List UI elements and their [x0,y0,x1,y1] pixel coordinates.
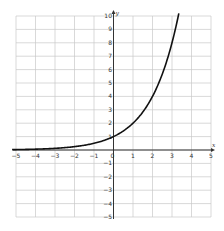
exponential-curve [12,13,179,149]
axes [13,10,215,219]
x-tick-label: 4 [190,152,194,159]
x-tick-label: −4 [31,152,40,159]
x-tick-label: −2 [70,152,79,159]
y-tick-label: −1 [103,159,112,166]
y-tick-label: 5 [108,79,112,86]
y-tick-label: −2 [103,173,112,180]
x-tick-label: −1 [90,152,99,159]
tick-labels: −5−4−3−2−1012345−5−4−3−2−112345678910 [12,12,214,220]
y-tick-label: 10 [104,12,112,19]
y-axis-label: y [115,9,120,17]
y-tick-label: 2 [108,119,112,126]
graph-plot: −5−4−3−2−1012345−5−4−3−2−112345678910 x … [0,0,224,231]
y-tick-label: 4 [108,92,112,99]
y-tick-label: 3 [108,106,112,113]
x-tick-label: 3 [170,152,174,159]
x-tick-label: 2 [151,152,155,159]
y-tick-label: −4 [103,200,112,207]
x-tick-label: 0 [111,152,115,159]
x-tick-label: −5 [12,152,21,159]
y-tick-label: 9 [108,25,112,32]
y-tick-label: 8 [108,39,112,46]
y-tick-label: 7 [108,52,112,59]
x-tick-label: 1 [131,152,135,159]
x-tick-label: −3 [51,152,60,159]
x-axis-label: x [212,141,216,148]
y-tick-label: −3 [103,186,112,193]
x-tick-label: 5 [209,152,213,159]
y-tick-label: 6 [108,66,112,73]
y-tick-label: −5 [103,213,112,220]
